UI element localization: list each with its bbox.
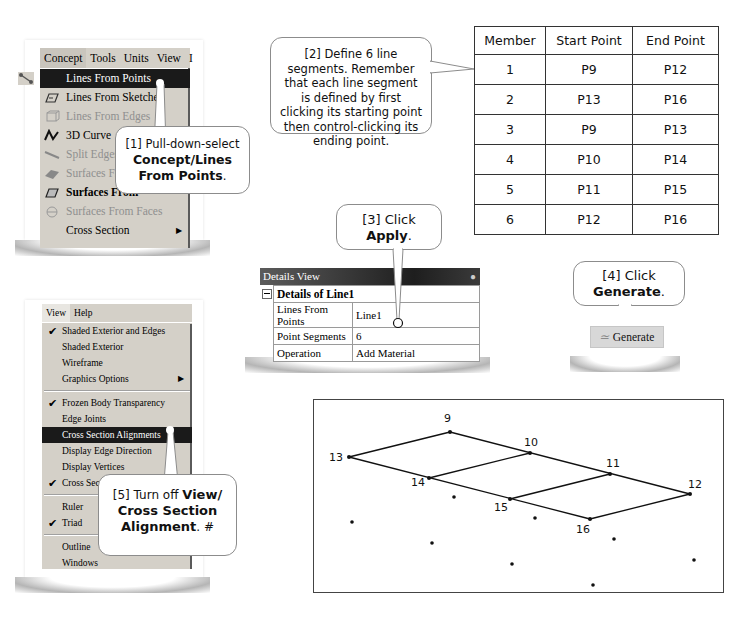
menu-item-shaded-exterior[interactable]: Shaded Exterior (42, 339, 192, 355)
generate-label: Generate (613, 331, 655, 343)
cell-end: P12 (633, 55, 719, 85)
callout-2-text: [2] Define 6 line segments. Remember tha… (280, 47, 422, 148)
table-row: 3 P9 P13 (475, 115, 719, 145)
menu-item-label: Lines From Points (66, 72, 151, 84)
submenu-arrow-icon: ▶ (176, 221, 182, 240)
menu-item-frozen-body-transparency[interactable]: ✔ Frozen Body Transparency (42, 395, 192, 411)
cell-start: P9 (546, 115, 633, 145)
menu-item-surfaces-from-faces[interactable]: Surfaces From Faces (40, 202, 190, 221)
menu-item-label: Graphics Options (62, 374, 129, 384)
callout-3: [3] Click Apply. (336, 204, 442, 250)
details-label: Lines From Points (274, 303, 353, 328)
header-member: Member (475, 27, 546, 55)
details-value[interactable]: Add Material (353, 345, 480, 362)
header-start-point: Start Point (546, 27, 633, 55)
pin-icon[interactable]: ● (470, 268, 476, 285)
header-end-point: End Point (633, 27, 719, 55)
callout-5-suffix: . # (196, 520, 214, 534)
menu-view[interactable]: View (42, 304, 70, 322)
menu-item-label: Display Vertices (62, 462, 124, 472)
details-row[interactable]: Operation Add Material (274, 345, 480, 362)
callout-4: [4] Click Generate. (573, 261, 685, 306)
checkmark-icon: ✔ (48, 515, 57, 531)
lightning-icon: ≃ (598, 330, 612, 345)
cell-end: P16 (633, 85, 719, 115)
menu-item-label: Shaded Exterior and Edges (62, 326, 165, 336)
cell-member: 4 (475, 145, 546, 175)
menu-item-label: Split Edges (66, 148, 119, 160)
menu-item-label: 3D Curve (66, 129, 111, 141)
cell-start: P10 (546, 145, 633, 175)
menu-item-wireframe[interactable]: Wireframe (42, 355, 192, 371)
point-label: 13 (329, 451, 343, 464)
menu-item-label: Outline (62, 542, 91, 552)
checkmark-icon: ✔ (48, 323, 57, 339)
point-label: 14 (411, 476, 425, 489)
menu-item-label: Cross Section (66, 224, 130, 236)
curve-3d-icon (44, 129, 60, 142)
panel-shadow (570, 356, 680, 372)
details-label: Point Segments (274, 328, 353, 345)
menu-item-label: Display Edge Direction (62, 446, 152, 456)
tree-gutter (260, 285, 273, 362)
cell-member: 5 (475, 175, 546, 205)
line-sketch-icon (44, 91, 60, 104)
cell-end: P14 (633, 145, 719, 175)
callout-2: [2] Define 6 line segments. Remember tha… (270, 37, 432, 134)
menu-item-shaded-exterior-edges[interactable]: ✔ Shaded Exterior and Edges (42, 323, 192, 339)
line-segments (349, 432, 690, 519)
menu-item-label: Frozen Body Transparency (62, 398, 165, 408)
menu-item-label: Edge Joints (62, 414, 106, 424)
menu-concept[interactable]: Concept (40, 48, 86, 68)
cell-end: P13 (633, 115, 719, 145)
table-row: 2 P13 P16 (475, 85, 719, 115)
cell-member: 6 (475, 205, 546, 235)
collapse-icon[interactable] (262, 289, 272, 299)
callout-3-prefix: [3] Click (362, 212, 416, 227)
callout-5: [5] Turn off View/ Cross Section Alignme… (98, 474, 237, 556)
menu-item-windows[interactable]: Windows (42, 555, 192, 571)
cell-member: 3 (475, 115, 546, 145)
menu-item-label: Ruler (62, 502, 83, 512)
table-row: 4 P10 P14 (475, 145, 719, 175)
menu-item-label: Cross Section Alignments (62, 430, 161, 440)
point-label: 9 (444, 412, 451, 425)
point-label: 11 (606, 457, 620, 470)
menu-item-cross-section[interactable]: Cross Section ▶ (40, 221, 190, 240)
menu-item-label: Lines From Edges (66, 110, 150, 122)
callout-3-pointer (383, 248, 413, 328)
menu-item-label: Windows (62, 558, 98, 568)
cell-start: P9 (546, 55, 633, 85)
graphics-viewport[interactable]: 9 10 11 12 13 14 15 16 (313, 399, 724, 593)
generate-button[interactable]: ≃ Generate (590, 326, 664, 348)
point-label: 16 (576, 523, 590, 536)
callout-2-pointer (430, 60, 475, 80)
callout-1-bold: Concept/Lines From Points (133, 152, 232, 183)
menubar: View Help (42, 304, 192, 323)
details-value[interactable]: Line1 (353, 303, 480, 328)
details-section-header[interactable]: Details of Line1 (274, 286, 480, 303)
line-body-graph: 9 10 11 12 13 14 15 16 (314, 400, 723, 592)
menu-item-label: Wireframe (62, 358, 103, 368)
menu-more[interactable]: I (185, 48, 197, 68)
callout-3-bold: Apply (366, 228, 408, 243)
members-table: Member Start Point End Point 1 P9 P12 2 … (474, 26, 719, 235)
details-grid: Details of Line1 Lines From Points Line1… (273, 285, 480, 362)
menu-view[interactable]: View (153, 48, 185, 68)
menu-item-graphics-options[interactable]: Graphics Options ▶ (42, 371, 192, 387)
details-value[interactable]: 6 (353, 328, 480, 345)
menu-item-label: Lines From Sketches (66, 91, 163, 103)
cell-member: 2 (475, 85, 546, 115)
menu-help[interactable]: Help (70, 304, 96, 322)
table-row: 6 P12 P16 (475, 205, 719, 235)
surface-edges-icon (44, 186, 60, 199)
menu-units[interactable]: Units (120, 48, 153, 68)
menu-item-label: Shaded Exterior (62, 342, 123, 352)
menu-tools[interactable]: Tools (86, 48, 119, 68)
details-row[interactable]: Lines From Points Line1 (274, 303, 480, 328)
details-row[interactable]: Point Segments 6 (274, 328, 480, 345)
cell-start: P12 (546, 205, 633, 235)
callout-1-prefix: [1] Pull-down-select (126, 137, 240, 151)
line-points-icon (18, 72, 34, 85)
callout-5-prefix: [5] Turn off (113, 488, 179, 502)
